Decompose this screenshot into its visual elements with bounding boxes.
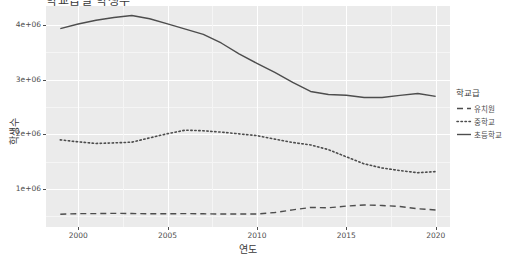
x-axis-tick-mark [257,227,258,230]
legend-key-icon [456,128,472,141]
x-axis-tick-mark [436,227,437,230]
series-line-유치원 [60,205,435,214]
series-line-중학교 [60,130,435,173]
y-axis-tick-mark [43,134,46,135]
series-lines [46,6,450,227]
x-axis-tick-mark [78,227,79,230]
legend-title: 학교급 [456,86,513,98]
x-axis-tick-label: 2005 [158,231,177,240]
x-axis-tick-label: 2015 [337,231,356,240]
y-axis-tick-mark [43,189,46,190]
series-line-초등학교 [60,16,435,98]
y-axis-title: 학생수 [6,101,21,161]
y-axis-tick-mark [43,25,46,26]
legend-item-초등학교: 초등학교 [456,128,513,141]
legend-label: 중학교 [474,116,495,127]
legend-item-중학교: 중학교 [456,115,513,128]
chart-container: 학교급별 학생수 1e+062e+063e+064e+06 2000200520… [0,0,513,261]
legend-label: 유치원 [474,103,495,114]
x-axis-tick-label: 2010 [247,231,266,240]
y-axis-tick-label: 1e+06 [0,184,41,193]
plot-panel [46,6,450,227]
legend: 학교급 유치원중학교초등학교 [456,86,513,141]
x-axis-tick-label: 2000 [69,231,88,240]
x-axis-tick-mark [168,227,169,230]
x-axis-title: 연도 [46,241,450,256]
legend-label: 초등학교 [474,129,502,140]
y-axis-tick-label: 3e+06 [0,75,41,84]
legend-key-icon [456,102,472,115]
x-axis-tick-label: 2020 [426,231,445,240]
y-axis-tick-label: 4e+06 [0,20,41,29]
legend-key-icon [456,115,472,128]
legend-item-유치원: 유치원 [456,102,513,115]
x-axis-tick-mark [346,227,347,230]
y-axis-tick-mark [43,80,46,81]
legend-item-list: 유치원중학교초등학교 [456,102,513,141]
